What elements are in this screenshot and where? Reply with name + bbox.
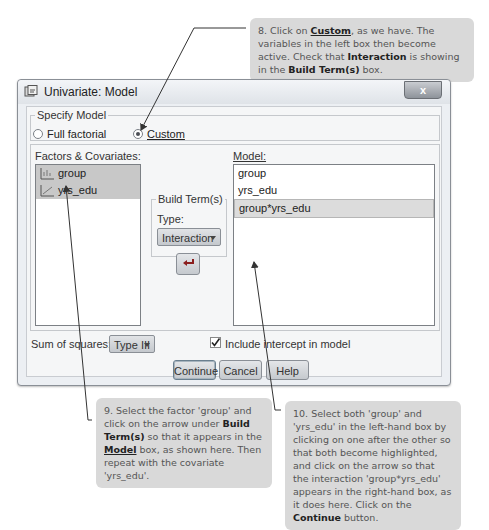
callout-emphasis: Build Term(s) [288, 64, 359, 75]
list-item-group[interactable]: group [36, 165, 140, 182]
callout-text: 8. Click on [258, 25, 311, 36]
move-right-arrow-icon [182, 258, 194, 268]
callout-text: button. [341, 512, 378, 523]
specify-model-legend: Specify Model [35, 109, 108, 121]
list-item-yrs-edu[interactable]: yrs_edu [36, 182, 140, 199]
include-intercept-label: Include intercept in model [225, 338, 350, 350]
model-list[interactable]: group yrs_edu group*yrs_edu [233, 164, 435, 326]
callout-text: box. [360, 64, 383, 75]
help-button[interactable]: Help [266, 360, 309, 380]
window-title: Univariate: Model [44, 85, 137, 99]
sum-of-squares-label: Sum of squares: [31, 338, 111, 350]
univariate-model-dialog: Univariate: Model x Specify Model Full f… [17, 79, 451, 386]
model-term-interaction[interactable]: group*yrs_edu [234, 199, 434, 218]
radio-button-on-icon [133, 129, 143, 139]
close-icon: x [420, 84, 426, 96]
move-term-button[interactable] [176, 253, 200, 275]
radio-button-off-icon [33, 129, 43, 139]
radio-full-factorial[interactable]: Full factorial [33, 128, 106, 140]
radio-label-full-factorial: Full factorial [47, 128, 106, 140]
factors-covariates-label: Factors & Covariates: [35, 150, 141, 162]
term-type-value: Interaction [162, 232, 213, 244]
cancel-button[interactable]: Cancel [219, 360, 262, 380]
dialog-body: Specify Model Full factorial Custom Fact… [26, 106, 442, 377]
radio-label-custom: Custom [147, 128, 185, 140]
spss-app-icon [24, 85, 38, 98]
callout-emphasis: Custom [311, 25, 351, 36]
callout-text: so that it appears in the [145, 431, 262, 442]
title-bar[interactable]: Univariate: Model x [18, 80, 450, 104]
sum-of-squares-dropdown[interactable]: Type III [109, 335, 155, 353]
model-term-yrs-edu[interactable]: yrs_edu [234, 182, 434, 199]
type-label: Type: [157, 213, 184, 225]
scale-variable-icon [40, 185, 54, 197]
factors-covariates-list[interactable]: group yrs_edu [35, 164, 141, 326]
continue-button[interactable]: Continue [173, 360, 216, 380]
model-label: Model: [233, 150, 266, 162]
callout-step-10: 10. Select both 'group' and 'yrs_edu' in… [285, 401, 461, 530]
include-intercept-checkbox[interactable] [210, 337, 221, 348]
factor-label: group [58, 165, 86, 182]
build-terms-group: Build Term(s) [151, 193, 227, 257]
build-terms-legend: Build Term(s) [156, 193, 225, 205]
chevron-down-icon [210, 236, 216, 240]
callout-emphasis: Model [104, 444, 136, 455]
callout-text: 10. Select both 'group' and 'yrs_edu' in… [293, 408, 451, 510]
radio-custom[interactable]: Custom [133, 128, 185, 140]
model-term-group[interactable]: group [234, 165, 434, 182]
chevron-down-icon [144, 343, 150, 347]
callout-step-9: 9. Select the factor 'group' and click o… [96, 398, 272, 488]
callout-step-8: 8. Click on Custom, as we have. The vari… [250, 18, 474, 82]
nominal-variable-icon [40, 168, 54, 180]
close-button[interactable]: x [404, 81, 442, 99]
term-type-dropdown[interactable]: Interaction [157, 228, 221, 246]
covariate-label: yrs_edu [58, 182, 97, 199]
callout-emphasis: Interaction [347, 51, 406, 62]
callout-emphasis: Continue [293, 512, 341, 523]
